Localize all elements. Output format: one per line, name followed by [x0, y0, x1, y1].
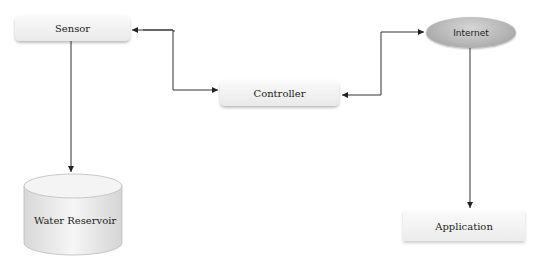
internet-node: Internet	[426, 17, 516, 48]
application-label: Application	[435, 221, 493, 232]
edge-sensor-controller	[143, 30, 218, 90]
edge-controller-internet	[342, 32, 381, 95]
controller-label: Controller	[253, 88, 305, 99]
diagram-canvas: Sensor Controller Internet Water Reservo…	[0, 0, 535, 260]
application-node: Application	[403, 211, 525, 241]
controller-node: Controller	[220, 80, 339, 106]
sensor-label: Sensor	[55, 23, 90, 34]
sensor-node: Sensor	[15, 15, 130, 41]
water-reservoir-label: Water Reservoir	[34, 215, 116, 226]
internet-label: Internet	[453, 28, 489, 38]
